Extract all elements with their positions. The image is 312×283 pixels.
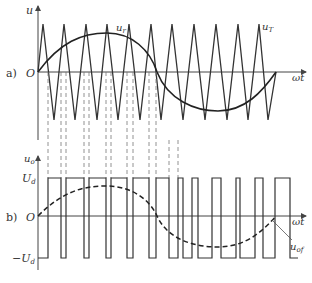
fundamental-label: uof	[290, 241, 305, 254]
panel-a-origin: O	[26, 67, 35, 80]
panel-b-y-label: uo	[24, 153, 35, 166]
neg-level-label: −Ud	[12, 252, 36, 266]
panel-b-x-label: ωt	[292, 216, 305, 227]
panel-a-y-label: u	[26, 4, 33, 17]
panel-b-tag: b)	[6, 211, 17, 224]
projection-lines	[48, 72, 178, 178]
reference-label: ur	[116, 22, 126, 35]
panel-a-tag: a)	[6, 67, 17, 80]
panel-a-x-label: ωt	[292, 72, 305, 83]
spwm-diagram: u a) O ωt ur uT uo Ud b) O	[0, 0, 312, 283]
pos-level-label: Ud	[22, 172, 36, 186]
panel-b-origin: O	[26, 211, 35, 224]
carrier-label: uT	[262, 21, 274, 34]
pwm-output-wave	[38, 178, 298, 258]
